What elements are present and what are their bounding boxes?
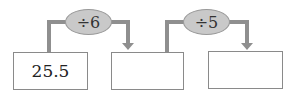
answer-box-2[interactable] bbox=[208, 51, 283, 89]
start-value-box: 25.5 bbox=[13, 52, 88, 90]
connector-1-left-horizontal bbox=[47, 20, 67, 24]
connector-2-down bbox=[245, 20, 249, 44]
arrow-down-icon bbox=[122, 43, 134, 50]
operation-label: ÷6 bbox=[77, 13, 101, 32]
operation-label: ÷5 bbox=[195, 13, 219, 32]
operation-divide-5: ÷5 bbox=[183, 9, 230, 35]
connector-2-left-horizontal bbox=[165, 20, 185, 24]
arrow-down-icon bbox=[241, 43, 253, 50]
operation-divide-6: ÷6 bbox=[65, 9, 112, 35]
connector-2-up bbox=[165, 20, 169, 52]
answer-box-1[interactable] bbox=[111, 52, 184, 90]
connector-1-down bbox=[126, 20, 130, 44]
start-value: 25.5 bbox=[32, 61, 70, 81]
connector-1-up bbox=[47, 20, 51, 52]
